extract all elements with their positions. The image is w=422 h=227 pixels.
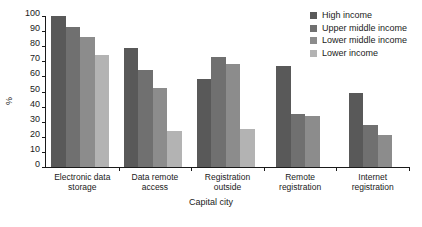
y-tick-label: 30 [16,115,40,123]
bar [211,57,226,167]
legend-swatch-icon [310,50,317,57]
bar [51,16,66,167]
y-tick-label: 40 [16,100,40,108]
x-axis-tick-mark [191,167,192,171]
bar [378,135,393,167]
legend-label: Upper middle income [322,24,407,33]
y-tick-mark [42,46,45,47]
x-axis-tick-mark [264,167,265,171]
y-tick-label: 60 [16,69,40,77]
x-axis-tick-mark [336,167,337,171]
y-tick-mark [42,31,45,32]
bar-group [51,16,109,167]
x-tick-label-line: Internet [330,172,415,182]
y-tick-label: 20 [16,130,40,138]
y-tick-mark [42,107,45,108]
bar [276,66,291,167]
x-tick-label-line: registration [330,182,415,192]
y-axis-title: % [4,94,14,108]
y-tick-mark [42,167,45,168]
bar [363,125,378,167]
legend-swatch-icon [310,12,317,19]
y-tick-label: 70 [16,54,40,62]
legend-swatch-icon [310,25,317,32]
y-tick-label: 0 [16,160,40,168]
bar [138,70,153,167]
bar-chart: % 0102030405060708090100 Electronic data… [0,0,422,227]
y-tick-label: 80 [16,39,40,47]
bar [197,79,212,167]
bar-group [197,16,255,167]
bar [124,48,139,167]
x-axis-tick-mark [119,167,120,171]
bar [226,64,241,167]
bar [240,129,255,167]
bar [305,116,320,167]
y-tick-label: 100 [16,9,40,17]
bar [349,93,364,167]
y-axis-tick-labels: 0102030405060708090100 [16,13,40,165]
legend-item: Upper middle income [310,24,407,33]
legend-label: Lower middle income [322,36,407,45]
legend-label: High income [322,11,372,20]
y-tick-mark [42,92,45,93]
bar [291,114,306,167]
x-axis-tick-mark [409,167,410,171]
y-tick-mark [42,76,45,77]
legend-swatch-icon [310,37,317,44]
y-tick-label: 90 [16,24,40,32]
bar [80,37,95,167]
bar [153,88,168,167]
y-tick-mark [42,61,45,62]
bar [167,131,182,167]
x-axis-line [45,167,409,168]
legend-item: Lower middle income [310,36,407,45]
y-tick-label: 50 [16,85,40,93]
y-tick-label: 10 [16,145,40,153]
chart-legend: High incomeUpper middle incomeLower midd… [310,11,407,61]
y-tick-mark [42,137,45,138]
y-tick-mark [42,122,45,123]
bar [66,27,81,167]
y-tick-mark [42,152,45,153]
x-tick-label: Internetregistration [330,172,415,192]
x-axis-title: Capital city [0,197,422,207]
legend-label: Lower income [322,49,378,58]
bar-group [124,16,182,167]
legend-item: High income [310,11,407,20]
bar [95,55,110,167]
y-tick-mark [42,16,45,17]
legend-item: Lower income [310,49,407,58]
